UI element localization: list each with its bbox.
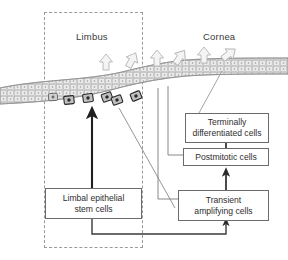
node-line-1: Limbal epithelial (63, 193, 125, 204)
migration-arrow (100, 54, 113, 70)
node-line-2: differentiated cells (192, 128, 261, 139)
node-line-1: Transient (194, 195, 252, 206)
node-line-1: Postmitotic cells (195, 152, 257, 163)
corneal-epithelium-band (0, 58, 288, 104)
node-postmitotic-cells[interactable]: Postmitotic cells (183, 148, 269, 166)
stem-cell (130, 90, 142, 101)
node-limbal-epithelial-stem-cells[interactable]: Limbal epithelial stem cells (45, 188, 142, 219)
stem-cell (82, 93, 93, 102)
connector-epithelium-to-postmitotic (168, 86, 183, 155)
stem-cell (64, 95, 75, 104)
node-terminally-differentiated-cells[interactable]: Terminally differentiated cells (185, 113, 269, 143)
figure-canvas: Limbus Cornea (0, 0, 288, 260)
leader-line-epithelium-to-terminal (199, 71, 222, 113)
stem-cell (111, 95, 123, 106)
migration-arrow (123, 50, 142, 70)
node-line-2: amplifying cells (194, 206, 252, 217)
node-line-2: stem cells (63, 204, 125, 215)
stem-cell (48, 93, 57, 101)
node-transient-amplifying-cells[interactable]: Transient amplifying cells (178, 190, 269, 221)
stem-cell (101, 92, 113, 103)
node-line-1: Terminally (192, 117, 261, 128)
